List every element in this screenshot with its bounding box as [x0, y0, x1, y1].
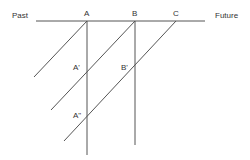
- diagonal-line-c: [64, 21, 176, 141]
- point-b-label: B: [132, 10, 137, 18]
- point-a-double-prime-label: A": [73, 112, 81, 120]
- point-a-prime-label: A': [73, 64, 80, 72]
- future-label: Future: [215, 12, 238, 20]
- past-label: Past: [12, 12, 28, 20]
- timeline-diagram: [0, 0, 250, 160]
- point-c-label: C: [173, 10, 179, 18]
- point-a-label: A: [84, 10, 89, 18]
- point-b-prime-label: B': [121, 64, 128, 72]
